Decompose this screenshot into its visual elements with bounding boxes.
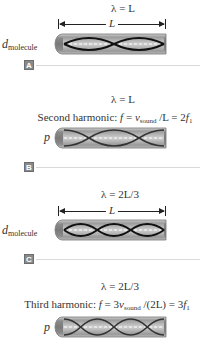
panel-c-length-label: L <box>106 204 118 216</box>
panel-d-tube-pressure-wave <box>54 316 168 338</box>
panel-b-wavelength: λ = L <box>20 93 206 105</box>
panel-a-badge: A <box>24 60 34 70</box>
panel-d-axis-label: p <box>44 321 50 333</box>
panel-b-tube-pressure-wave <box>54 127 168 149</box>
panel-a-axis-label: dmolecule <box>2 38 37 54</box>
panel-a-length-label: L <box>106 17 118 29</box>
panel-a-wavelength: λ = L <box>20 2 206 14</box>
panel-a-length-dimension: L <box>58 19 166 29</box>
panel-c-length-dimension: L <box>58 206 166 216</box>
panel-d-wavelength: λ = 2L/3 <box>17 280 206 292</box>
panel-b-harmonic-equation: Second harmonic: f = vsound /L = 2f1 <box>12 111 206 127</box>
panel-b-separator <box>36 167 200 168</box>
panel-c-badge: C <box>24 254 34 264</box>
panel-c-separator <box>36 259 200 260</box>
panel-d-harmonic-equation: Third harmonic: f = 3vsound /(2L) = 3f1 <box>4 298 206 314</box>
panel-b-badge: B <box>24 162 34 172</box>
panel-c-axis-label: dmolecule <box>2 224 37 240</box>
panel-c-wavelength: λ = 2L/3 <box>17 188 206 200</box>
panel-b-axis-label: p <box>44 131 50 143</box>
panel-a-tube-displacement-wave <box>54 33 168 55</box>
panel-a-separator <box>36 65 200 66</box>
panel-c-tube-displacement-wave <box>54 219 168 241</box>
